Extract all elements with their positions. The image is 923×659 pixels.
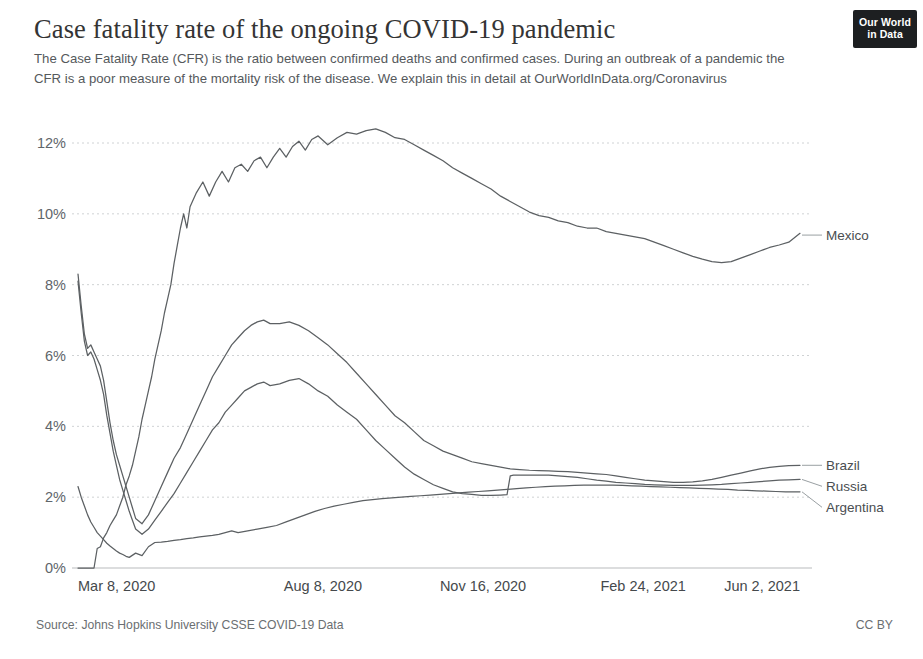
y-axis-tick-label: 8% — [45, 277, 66, 293]
y-axis-tick-label: 0% — [45, 560, 66, 576]
series-label-leader — [802, 479, 822, 486]
series-group — [78, 129, 800, 568]
y-axis-tick-label: 4% — [45, 418, 66, 434]
series-label-brazil[interactable]: Brazil — [826, 458, 860, 473]
x-axis-tick-label: Mar 8, 2020 — [78, 578, 155, 594]
y-axis-tick-label: 10% — [37, 206, 66, 222]
gridlines-group — [72, 143, 812, 568]
y-axis-ticks: 0%2%4%6%8%10%12% — [37, 135, 66, 576]
chart-page: Case fatality rate of the ongoing COVID-… — [0, 0, 923, 659]
x-axis-ticks: Mar 8, 2020Aug 8, 2020Nov 16, 2020Feb 24… — [78, 578, 800, 594]
y-axis-tick-label: 12% — [37, 135, 66, 151]
x-axis-tick-label: Nov 16, 2020 — [440, 578, 526, 594]
source-note: Source: Johns Hopkins University CSSE CO… — [36, 618, 344, 632]
series-label-russia[interactable]: Russia — [826, 479, 868, 494]
series-label-argentina[interactable]: Argentina — [826, 500, 884, 515]
line-chart: 0%2%4%6%8%10%12% Mar 8, 2020Aug 8, 2020N… — [0, 0, 923, 659]
series-labels-group: MexicoBrazilRussiaArgentina — [802, 228, 884, 515]
x-axis-tick-label: Aug 8, 2020 — [284, 578, 362, 594]
series-line-argentina — [78, 485, 800, 557]
y-axis-tick-label: 6% — [45, 348, 66, 364]
series-label-leader — [802, 492, 822, 507]
series-label-mexico[interactable]: Mexico — [826, 228, 869, 243]
series-line-russia — [78, 281, 800, 534]
series-line-mexico — [78, 129, 800, 568]
chart-plot-area: 0%2%4%6%8%10%12% Mar 8, 2020Aug 8, 2020N… — [0, 0, 923, 659]
license-note: CC BY — [856, 618, 893, 632]
y-axis-tick-label: 2% — [45, 489, 66, 505]
x-axis-tick-label: Jun 2, 2021 — [724, 578, 800, 594]
x-axis-tick-label: Feb 24, 2021 — [600, 578, 685, 594]
